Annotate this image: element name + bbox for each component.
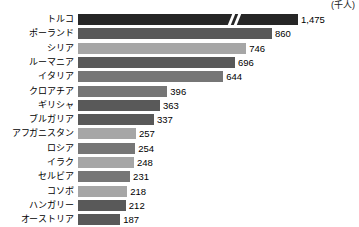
value-label: 1,475 xyxy=(301,12,325,27)
value-label: 218 xyxy=(130,184,146,199)
bar xyxy=(78,28,272,39)
value-label: 696 xyxy=(238,55,254,70)
bar-row: イタリア644 xyxy=(0,69,359,84)
bar xyxy=(78,43,246,54)
bar-row: コソボ218 xyxy=(0,184,359,199)
value-label: 231 xyxy=(133,169,149,184)
bar-chart: (千人) トルコ1,475ポーランド860シリア746ルーマニア696イタリア6… xyxy=(0,0,359,227)
bar-row: ルーマニア696 xyxy=(0,55,359,70)
category-label: シリア xyxy=(0,41,74,56)
bar xyxy=(78,57,235,68)
category-label: ギリシャ xyxy=(0,98,74,113)
bar-row: イラク248 xyxy=(0,155,359,170)
category-label: ブルガリア xyxy=(0,112,74,127)
value-label: 254 xyxy=(138,141,154,156)
bar-row: オーストリア187 xyxy=(0,212,359,227)
category-label: オーストリア xyxy=(0,212,74,227)
bar-row: シリア746 xyxy=(0,41,359,56)
value-label: 860 xyxy=(275,26,291,41)
value-label: 363 xyxy=(163,98,179,113)
value-label: 396 xyxy=(170,84,186,99)
value-label: 212 xyxy=(129,198,145,213)
bar-row: アフガニスタン257 xyxy=(0,126,359,141)
bar xyxy=(78,143,135,154)
category-label: コソボ xyxy=(0,184,74,199)
bar xyxy=(78,71,223,82)
category-label: セルビア xyxy=(0,169,74,184)
category-label: ハンガリー xyxy=(0,198,74,213)
bar xyxy=(78,214,120,225)
category-label: ルーマニア xyxy=(0,55,74,70)
bar xyxy=(78,157,134,168)
value-label: 337 xyxy=(157,112,173,127)
category-label: ロシア xyxy=(0,141,74,156)
category-label: イタリア xyxy=(0,69,74,84)
bar xyxy=(78,186,127,197)
bar-row: クロアチア396 xyxy=(0,84,359,99)
bar-row: トルコ1,475 xyxy=(0,12,359,27)
bar-row: ポーランド860 xyxy=(0,26,359,41)
category-label: クロアチア xyxy=(0,84,74,99)
category-label: イラク xyxy=(0,155,74,170)
bar xyxy=(78,200,126,211)
category-label: トルコ xyxy=(0,12,74,27)
category-label: アフガニスタン xyxy=(0,126,74,141)
value-label: 248 xyxy=(137,155,153,170)
bar xyxy=(78,114,154,125)
category-label: ポーランド xyxy=(0,26,74,41)
bar xyxy=(78,14,298,25)
bar-row: ブルガリア337 xyxy=(0,112,359,127)
plot-area: トルコ1,475ポーランド860シリア746ルーマニア696イタリア644クロア… xyxy=(0,12,359,227)
bar-row: ギリシャ363 xyxy=(0,98,359,113)
bar-row: ロシア254 xyxy=(0,141,359,156)
value-label: 644 xyxy=(226,69,242,84)
bar xyxy=(78,86,167,97)
bar xyxy=(78,100,160,111)
bar xyxy=(78,128,136,139)
value-label: 187 xyxy=(123,212,139,227)
value-label: 257 xyxy=(139,126,155,141)
bar-row: セルビア231 xyxy=(0,169,359,184)
axis-unit-label: (千人) xyxy=(331,0,355,11)
bar xyxy=(78,171,130,182)
bar-row: ハンガリー212 xyxy=(0,198,359,213)
value-label: 746 xyxy=(249,41,265,56)
